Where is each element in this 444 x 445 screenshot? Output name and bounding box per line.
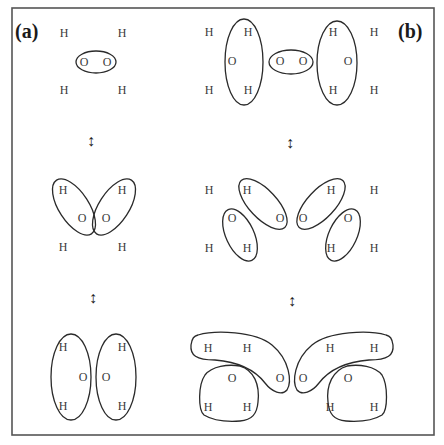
oxygen-atom: O <box>344 54 353 68</box>
hydrogen-atom: H <box>59 183 68 197</box>
hydrogen-atom: H <box>370 183 379 197</box>
oxygen-atom: O <box>79 370 88 384</box>
oxygen-atom: O <box>299 211 308 225</box>
panel-b-label: (b) <box>398 20 422 43</box>
figure-canvas: (a) (b) ↕ ↕ ↕ ↕ HHOOHH HHOOHH <box>0 0 444 445</box>
hydrogen-atom: H <box>327 241 336 255</box>
oxygen-atom: O <box>344 211 353 225</box>
resonance-arrow-icon: ↕ <box>87 132 95 149</box>
hydrogen-atom: H <box>329 83 338 97</box>
hydrogen-atom: H <box>204 341 213 355</box>
resonance-structures-figure: (a) (b) ↕ ↕ ↕ ↕ HHOOHH HHOOHH <box>0 0 444 445</box>
hydrogen-atom: H <box>243 183 252 197</box>
oxygen-atom: O <box>299 371 308 385</box>
oxygen-atom: O <box>299 54 308 68</box>
oxygen-atom: O <box>228 371 237 385</box>
hydrogen-atom: H <box>60 83 69 97</box>
oxygen-atom: O <box>228 211 237 225</box>
hydrogen-atom: H <box>118 183 127 197</box>
hydrogen-atom: H <box>205 183 214 197</box>
hydrogen-atom: H <box>243 241 252 255</box>
hydrogen-atom: H <box>370 25 379 39</box>
hydrogen-atom: H <box>244 25 253 39</box>
panel-a-structure-top: HHOOHH <box>60 26 127 97</box>
hydrogen-atom: H <box>118 83 127 97</box>
oxygen-atom: O <box>276 371 285 385</box>
atom-group: HHHHOOOOHHHH <box>204 341 379 414</box>
oxygen-atom: O <box>102 370 111 384</box>
hydrogen-atom: H <box>327 183 336 197</box>
hydrogen-atom: H <box>329 25 338 39</box>
hydrogen-atom: H <box>370 241 379 255</box>
bond-loop <box>289 171 353 237</box>
hydrogen-atom: H <box>60 26 69 40</box>
resonance-arrow-icon: ↕ <box>89 289 97 306</box>
hydrogen-atom: H <box>205 241 214 255</box>
hydrogen-atom: H <box>205 83 214 97</box>
oxygen-atom: O <box>103 55 112 69</box>
hydrogen-atom: H <box>118 240 127 254</box>
panel-a-label: (a) <box>15 20 38 43</box>
hydrogen-atom: H <box>244 83 253 97</box>
panel-b-structure-top: HHHHOOOOHHHH <box>205 19 379 105</box>
atom-group: HHHHOOOOHHHH <box>205 183 379 255</box>
hydrogen-atom: H <box>118 340 127 354</box>
panel-a-structure-bottom: HHOOHH <box>51 334 136 420</box>
oxygen-atom: O <box>344 371 353 385</box>
oxygen-atom: O <box>78 211 87 225</box>
hydrogen-atom: H <box>243 400 252 414</box>
hydrogen-atom: H <box>326 400 335 414</box>
panel-b-structure-bottom: HHHHOOOOHHHH <box>191 332 393 421</box>
resonance-arrows: ↕ ↕ ↕ ↕ <box>87 132 296 309</box>
hydrogen-atom: H <box>243 341 252 355</box>
hydrogen-atom: H <box>59 340 68 354</box>
oxygen-atom: O <box>276 211 285 225</box>
oxygen-atom: O <box>102 211 111 225</box>
hydrogen-atom: H <box>59 399 68 413</box>
panel-a: HHOOHH HHOOHH HHOOHH <box>44 26 144 420</box>
atom-group: HHOOHH <box>59 340 127 413</box>
bond-loop <box>231 171 295 237</box>
hydrogen-atom: H <box>326 341 335 355</box>
resonance-arrow-icon: ↕ <box>286 134 294 151</box>
oxygen-atom: O <box>228 54 237 68</box>
hydrogen-atom: H <box>370 341 379 355</box>
hydrogen-atom: H <box>370 83 379 97</box>
panel-b-structure-middle: HHHHOOOOHHHH <box>205 171 379 266</box>
hydrogen-atom: H <box>205 25 214 39</box>
resonance-arrow-icon: ↕ <box>288 292 296 309</box>
panel-a-structure-middle: HHOOHH <box>44 172 144 254</box>
oxygen-atom: O <box>80 55 89 69</box>
hydrogen-atom: H <box>59 240 68 254</box>
oxygen-atom: O <box>276 54 285 68</box>
panel-b: HHHHOOOOHHHH HHHHOOOOHHHH HHHHOOOO <box>191 19 393 421</box>
hydrogen-atom: H <box>118 26 127 40</box>
hydrogen-atom: H <box>370 400 379 414</box>
hydrogen-atom: H <box>204 400 213 414</box>
hydrogen-atom: H <box>118 399 127 413</box>
bond-loop <box>215 204 264 267</box>
